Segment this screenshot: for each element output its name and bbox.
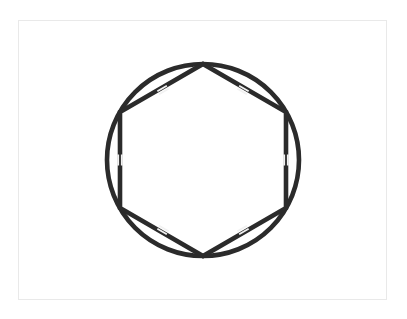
diagram-page <box>0 0 407 319</box>
shapes-group <box>107 64 299 256</box>
circumscribed-circle <box>107 64 299 256</box>
tick-marks-group <box>118 86 288 235</box>
geometry-figure <box>0 0 407 319</box>
inscribed-hexagon <box>120 64 286 256</box>
